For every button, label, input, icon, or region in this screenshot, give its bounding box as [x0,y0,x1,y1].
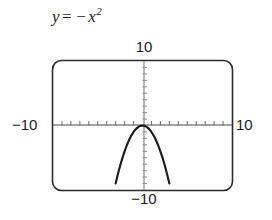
plot-area [0,0,272,220]
graph-figure: y=−x2 10 −10 −10 10 [0,0,272,220]
